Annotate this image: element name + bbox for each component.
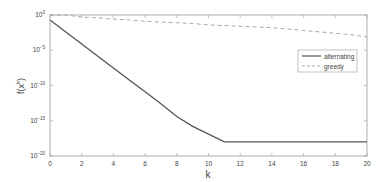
y-tick-label: 10−10 [30, 81, 45, 89]
legend-greedy-label: greedy [324, 63, 345, 71]
x-tick-label: 20 [363, 160, 371, 167]
x-tick-label: 18 [332, 160, 340, 167]
series-line-greedy [50, 15, 367, 37]
series-line-alternating [50, 20, 367, 142]
x-tick-label: 2 [80, 160, 84, 167]
convergence-chart: 02468101214161820 10010−510−1010−1510−20… [0, 0, 388, 182]
x-tick-label: 4 [112, 160, 116, 167]
x-tick-label: 14 [268, 160, 276, 167]
plot-series [50, 15, 367, 142]
svg-text:f(xk): f(xk) [15, 78, 26, 94]
y-axis-ticks: 10010−510−1010−1510−20 [30, 10, 367, 159]
y-tick-label: 10−20 [30, 151, 45, 159]
x-tick-label: 10 [205, 160, 213, 167]
x-tick-label: 12 [237, 160, 245, 167]
y-axis-label: f(xk) [15, 78, 26, 94]
x-tick-label: 6 [143, 160, 147, 167]
y-tick-label: 100 [35, 10, 45, 18]
x-tick-label: 8 [175, 160, 179, 167]
plot-frame [50, 15, 367, 156]
y-tick-label: 10−15 [30, 116, 45, 124]
x-axis-ticks: 02468101214161820 [48, 15, 371, 167]
legend: alternating greedy [298, 50, 357, 72]
y-tick-label: 10−5 [33, 45, 46, 53]
x-tick-label: 0 [48, 160, 52, 167]
legend-alternating-label: alternating [324, 53, 355, 61]
x-axis-label: k [206, 169, 212, 180]
x-tick-label: 16 [300, 160, 308, 167]
